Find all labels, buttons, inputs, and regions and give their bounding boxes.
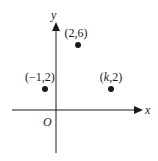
point-k-2 <box>108 86 114 92</box>
point-label-neg1-2: (−1,2) <box>25 70 55 84</box>
point-2-6 <box>75 42 81 48</box>
x-axis-arrow-icon <box>134 106 143 114</box>
point-label-k-2: (k,2) <box>100 70 122 84</box>
y-axis-label: y <box>50 8 57 22</box>
point-label-2-6: (2,6) <box>65 26 88 40</box>
point-neg1-2 <box>42 86 48 92</box>
k-variable: k <box>104 70 110 84</box>
origin-label: O <box>43 115 52 129</box>
coordinate-plane: x y O (−1,2) (2,6) (k,2) <box>0 0 158 161</box>
y-axis-arrow-icon <box>52 22 60 31</box>
x-axis-label: x <box>144 103 151 117</box>
